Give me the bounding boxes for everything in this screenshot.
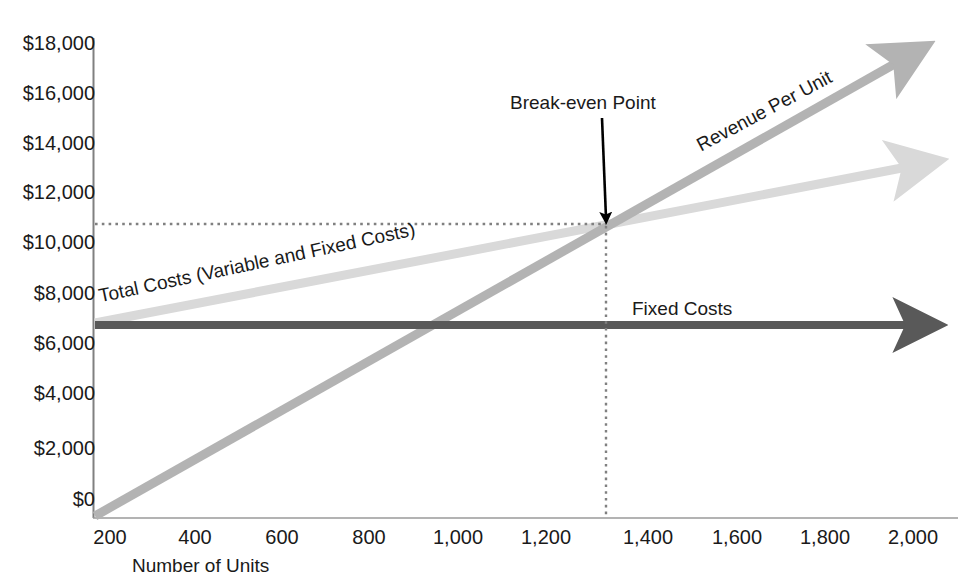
series-line-revenue bbox=[95, 62, 898, 516]
x-axis-tick-1800: 1,800 bbox=[800, 527, 850, 547]
y-axis-tick-12000: $12,000 bbox=[23, 182, 95, 202]
y-axis-tick-0: $0 bbox=[73, 489, 95, 509]
break-even-chart: $18,000 $16,000 $14,000 $12,000 $10,000 … bbox=[0, 0, 964, 582]
y-axis-tick-8000: $8,000 bbox=[34, 283, 95, 303]
y-axis-tick-16000: $16,000 bbox=[23, 83, 95, 103]
x-axis-tick-1000: 1,000 bbox=[433, 527, 483, 547]
x-axis-tick-400: 400 bbox=[178, 527, 211, 547]
x-axis-tick-1400: 1,400 bbox=[623, 527, 673, 547]
series-label-fixed-costs: Fixed Costs bbox=[632, 299, 732, 318]
y-axis-tick-14000: $14,000 bbox=[23, 133, 95, 153]
y-axis-tick-6000: $6,000 bbox=[34, 333, 95, 353]
break-even-point-label: Break-even Point bbox=[510, 93, 656, 112]
y-axis-tick-4000: $4,000 bbox=[34, 383, 95, 403]
x-axis-tick-2000: 2,000 bbox=[888, 527, 938, 547]
break-even-arrow bbox=[602, 118, 606, 218]
x-axis-tick-800: 800 bbox=[352, 527, 385, 547]
y-axis-tick-2000: $2,000 bbox=[34, 438, 95, 458]
x-axis-tick-600: 600 bbox=[265, 527, 298, 547]
y-axis-tick-10000: $10,000 bbox=[23, 232, 95, 252]
series-line-total-costs bbox=[95, 167, 907, 323]
x-axis-tick-1200: 1,200 bbox=[521, 527, 571, 547]
x-axis-title: Number of Units bbox=[132, 556, 269, 575]
x-axis-tick-1600: 1,600 bbox=[712, 527, 762, 547]
y-axis-tick-18000: $18,000 bbox=[23, 33, 95, 53]
x-axis-tick-200: 200 bbox=[93, 527, 126, 547]
